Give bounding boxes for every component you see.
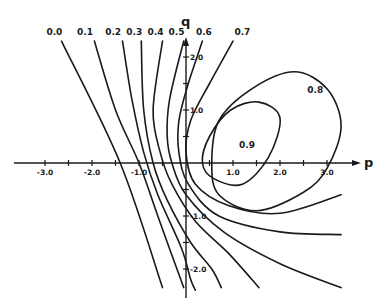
q-tick-label: 2.0 <box>190 53 203 62</box>
contour-line-0-7 <box>186 41 341 214</box>
p-tick-label: 2.0 <box>273 168 286 177</box>
contour-label-0-9: 0.9 <box>239 140 255 150</box>
contour-line-0-4 <box>153 41 259 288</box>
contour-curves <box>62 41 342 290</box>
q-tick-label: 1.0 <box>190 106 203 115</box>
contour-line-0-2 <box>123 41 196 290</box>
contour-plot: p q -3.0-2.0-1.01.02.03.02.01.0-1.0-2.0 … <box>0 0 379 302</box>
p-axis-arrow <box>352 160 361 166</box>
p-tick-label: 3.0 <box>320 168 333 177</box>
contour-label-0-8: 0.8 <box>307 85 323 95</box>
contour-label-0-0: 0.0 <box>46 27 62 37</box>
contour-label-0-1: 0.1 <box>77 27 93 37</box>
p-axis-label: p <box>364 155 373 170</box>
contour-label-0-3: 0.3 <box>126 27 142 37</box>
contour-line-0-6 <box>178 41 341 235</box>
contour-label-0-7: 0.7 <box>234 27 250 37</box>
p-tick-label: -2.0 <box>84 168 100 177</box>
q-tick-label: -1.0 <box>190 212 206 221</box>
contour-label-0-6: 0.6 <box>196 27 212 37</box>
q-tick-label: -2.0 <box>190 265 206 274</box>
contour-label-0-5: 0.5 <box>169 27 185 37</box>
p-tick-label: 1.0 <box>226 168 239 177</box>
contour-label-0-4: 0.4 <box>147 27 163 37</box>
p-tick-label: -1.0 <box>131 168 147 177</box>
p-tick-label: -3.0 <box>37 168 53 177</box>
contour-label-0-2: 0.2 <box>105 27 121 37</box>
